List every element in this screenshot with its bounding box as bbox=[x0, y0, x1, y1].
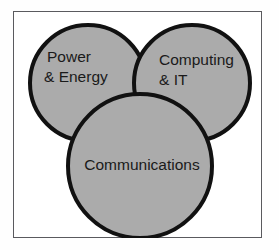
label-computing-it-line1: Computing bbox=[159, 51, 234, 68]
label-communications: Communications bbox=[84, 156, 200, 173]
label-computing-it-line2: & IT bbox=[159, 71, 188, 88]
label-power-energy-line1: Power bbox=[47, 48, 91, 65]
label-power-energy-line2: & Energy bbox=[44, 68, 108, 85]
venn-diagram-figure: Power & Energy Computing & IT Communicat… bbox=[0, 0, 279, 250]
venn-diagram-canvas: Power & Energy Computing & IT Communicat… bbox=[13, 11, 262, 238]
